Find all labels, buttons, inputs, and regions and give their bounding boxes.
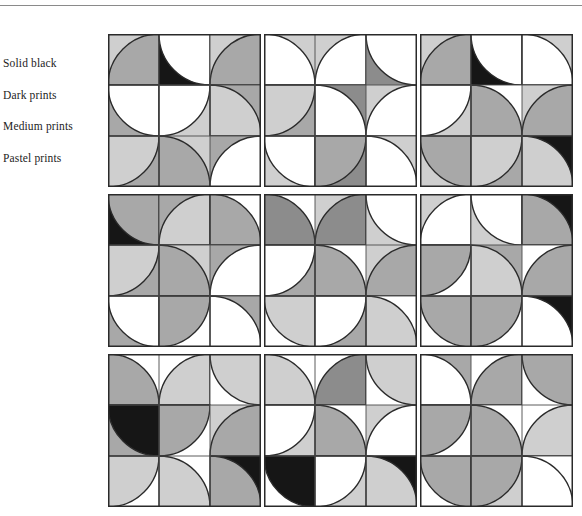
quilt-illustration-page: Solid blackDark printsMedium printsPaste…	[0, 0, 582, 516]
quilt-cell	[210, 456, 261, 507]
quilt-cell	[522, 456, 573, 507]
quilt-cell	[159, 456, 210, 507]
page-top-rule	[0, 5, 582, 6]
quilt-cell	[471, 456, 522, 507]
quilt-block	[420, 354, 574, 508]
quilt-cell	[420, 194, 471, 245]
quilt-cell	[108, 296, 159, 347]
quilt-cell	[522, 194, 573, 245]
legend-item-medium: Medium prints	[3, 120, 103, 133]
quilt-cell	[315, 194, 366, 245]
quilt-cell	[522, 85, 573, 136]
quilt-cell	[420, 405, 471, 456]
quilt-cell	[108, 194, 159, 245]
quilt-cell	[522, 405, 573, 456]
block-8	[264, 354, 417, 507]
quilt-cell	[366, 34, 417, 85]
quilt-block	[108, 34, 262, 188]
block-6	[420, 194, 573, 347]
quilt-cell	[210, 405, 261, 456]
quilt-cell	[366, 456, 417, 507]
quilt-cell	[420, 456, 471, 507]
value-legend: Solid blackDark printsMedium printsPaste…	[3, 57, 103, 183]
quilt-cell	[210, 354, 261, 405]
quilt-cell	[366, 296, 417, 347]
quilt-cell	[159, 34, 210, 85]
quilt-cell	[264, 354, 315, 405]
quilt-cell	[471, 34, 522, 85]
quilt-cell	[159, 194, 210, 245]
quilt-cell	[315, 85, 366, 136]
quilt-cell	[471, 354, 522, 405]
quilt-cell	[108, 85, 159, 136]
quilt-cell	[264, 194, 315, 245]
quilt-cell	[210, 245, 261, 296]
quilt-cell	[264, 405, 315, 456]
quilt-cell	[264, 85, 315, 136]
quilt-block	[420, 194, 574, 348]
quilt-cell	[420, 296, 471, 347]
quilt-cell	[315, 245, 366, 296]
quilt-cell	[159, 136, 210, 187]
quilt-cell	[210, 34, 261, 85]
quilt-cell	[471, 85, 522, 136]
quilt-cell	[108, 245, 159, 296]
quilt-cell	[366, 136, 417, 187]
quilt-cell	[315, 136, 366, 187]
quilt-cell	[159, 85, 210, 136]
quilt-cell	[159, 245, 210, 296]
quilt-cell	[264, 245, 315, 296]
legend-item-black: Solid black	[3, 57, 103, 70]
quilt-cell	[159, 354, 210, 405]
quilt-block	[264, 354, 418, 508]
quilt-cell	[366, 405, 417, 456]
quilt-cell	[471, 194, 522, 245]
quilt-cell	[366, 85, 417, 136]
quilt-cell	[366, 245, 417, 296]
block-1	[108, 34, 261, 187]
quilt-cell	[420, 354, 471, 405]
quilt-cell	[108, 136, 159, 187]
block-2	[264, 34, 417, 187]
quilt-block	[108, 194, 262, 348]
quilt-cell	[264, 136, 315, 187]
quilt-block	[420, 34, 574, 188]
quilt-cell	[471, 245, 522, 296]
quilt-block-grid	[108, 34, 574, 508]
quilt-cell	[159, 405, 210, 456]
quilt-block	[108, 354, 262, 508]
block-3	[420, 34, 573, 187]
block-7	[108, 354, 261, 507]
quilt-cell	[264, 34, 315, 85]
legend-item-dark: Dark prints	[3, 89, 103, 102]
quilt-cell	[420, 245, 471, 296]
quilt-cell	[522, 245, 573, 296]
quilt-cell	[315, 405, 366, 456]
quilt-cell	[522, 296, 573, 347]
quilt-cell	[210, 194, 261, 245]
quilt-cell	[315, 456, 366, 507]
quilt-cell	[108, 354, 159, 405]
quilt-cell	[159, 296, 210, 347]
quilt-cell	[108, 456, 159, 507]
quilt-cell	[108, 405, 159, 456]
quilt-cell	[315, 34, 366, 85]
quilt-cell	[210, 85, 261, 136]
quilt-cell	[471, 296, 522, 347]
quilt-cell	[366, 194, 417, 245]
quilt-cell	[264, 296, 315, 347]
quilt-cell	[315, 296, 366, 347]
quilt-cell	[522, 34, 573, 85]
quilt-cell	[522, 354, 573, 405]
quilt-cell	[420, 85, 471, 136]
quilt-cell	[366, 354, 417, 405]
quilt-cell	[210, 296, 261, 347]
block-9	[420, 354, 573, 507]
quilt-block	[264, 34, 418, 188]
quilt-block	[264, 194, 418, 348]
quilt-cell	[420, 34, 471, 85]
block-5	[264, 194, 417, 347]
quilt-cell	[264, 456, 315, 507]
quilt-cell	[471, 405, 522, 456]
quilt-cell	[471, 136, 522, 187]
